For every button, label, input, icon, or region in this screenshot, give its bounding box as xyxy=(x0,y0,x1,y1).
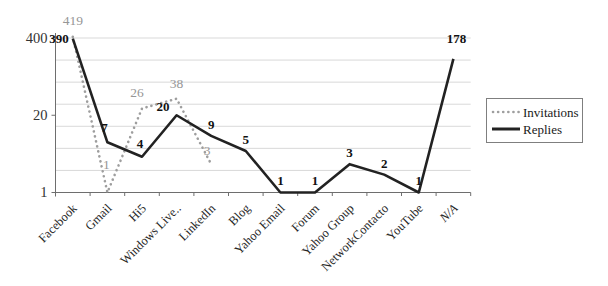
data-label-replies: 1 xyxy=(277,173,284,188)
x-category-label: Windows Live.. xyxy=(117,201,183,267)
legend-entry-invitations: Invitations xyxy=(491,106,578,119)
chart-legend: Invitations Replies xyxy=(486,98,583,143)
dotted-line-icon xyxy=(491,107,521,117)
x-category-label: Blog xyxy=(226,201,254,229)
data-label-replies: 9 xyxy=(208,117,215,132)
series-line-replies xyxy=(73,39,454,193)
x-category-label: Gmail xyxy=(83,201,115,233)
x-category-label: Facebook xyxy=(36,201,81,246)
solid-line-icon xyxy=(491,124,521,134)
data-label-invitations: 1 xyxy=(103,157,110,172)
data-label-replies: 1 xyxy=(312,173,319,188)
data-label-replies: 4 xyxy=(137,136,144,151)
x-category-label: YouTube xyxy=(384,201,426,243)
x-category-label: LinkedIn xyxy=(176,201,219,244)
data-label-replies: 20 xyxy=(157,99,170,114)
data-label-replies: 1 xyxy=(416,173,423,188)
y-tick-label: 20 xyxy=(33,107,48,123)
data-label-replies: 7 xyxy=(101,120,108,135)
y-tick-label: 400 xyxy=(26,30,48,46)
data-label-invitations: 419 xyxy=(63,13,84,28)
data-label-invitations: 3 xyxy=(204,143,211,158)
data-label-replies: 390 xyxy=(49,31,69,46)
data-label-invitations: 38 xyxy=(170,76,184,91)
line-chart-canvas: 400201FacebookGmailHi5Windows Live..Link… xyxy=(0,0,608,286)
legend-label-replies: Replies xyxy=(523,123,562,136)
data-label-replies: 5 xyxy=(243,132,250,147)
legend-entry-replies: Replies xyxy=(491,123,578,136)
x-category-label: N/A xyxy=(436,201,461,226)
data-label-replies: 2 xyxy=(381,156,388,171)
legend-label-invitations: Invitations xyxy=(523,106,579,119)
data-label-invitations: 26 xyxy=(130,85,144,100)
x-category-label: Hi5 xyxy=(126,201,149,224)
y-tick-label: 1 xyxy=(40,184,47,200)
chart-figure: 400201FacebookGmailHi5Windows Live..Link… xyxy=(0,0,608,286)
data-label-replies: 3 xyxy=(346,145,353,160)
data-label-replies: 178 xyxy=(447,31,467,46)
